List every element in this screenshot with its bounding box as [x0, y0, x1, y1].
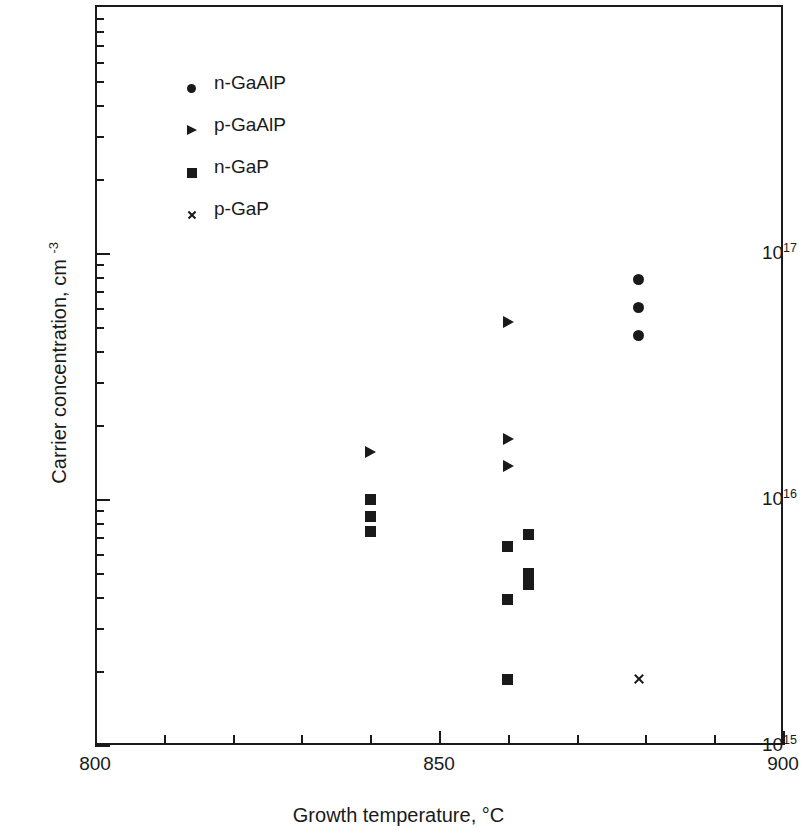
data-point-n-gap	[365, 494, 376, 505]
y-axis-major-tick	[95, 745, 110, 747]
y-axis-minor-tick	[95, 136, 104, 138]
data-point-p-gaalp	[503, 433, 514, 445]
x-axis-title: Growth temperature, °C	[0, 805, 797, 825]
y-axis-major-tick	[95, 499, 110, 501]
data-point-p-gap	[632, 672, 646, 686]
x-axis-minor-tick	[645, 735, 647, 745]
y-axis-tick-label: 1015	[717, 734, 797, 754]
y-axis-minor-tick	[95, 510, 104, 512]
y-tick-exponent: 17	[783, 241, 797, 255]
y-axis-minor-tick	[95, 597, 104, 599]
data-point-p-gaalp	[503, 460, 514, 472]
y-axis-title: Carrier concentration, cm -3	[47, 153, 69, 573]
y-tick-exponent: 15	[783, 733, 797, 747]
y-axis-minor-tick	[95, 18, 104, 20]
legend-label: p-GaP	[214, 199, 269, 218]
y-axis-minor-tick	[95, 327, 104, 329]
data-point-p-gaalp	[365, 446, 376, 458]
y-axis-minor-tick	[95, 573, 104, 575]
data-point-n-gap	[523, 579, 534, 590]
legend-marker-glyph	[187, 84, 196, 93]
y-axis-minor-tick	[95, 628, 104, 630]
y-axis-major-tick	[95, 253, 110, 255]
y-axis-minor-tick	[95, 62, 104, 64]
legend-marker-triangle-right-icon	[185, 122, 201, 138]
data-point-n-gap	[523, 529, 534, 540]
y-axis-minor-tick	[95, 81, 104, 83]
y-axis-minor-tick	[95, 523, 104, 525]
y-axis-title-exponent: -3	[46, 242, 61, 254]
y-axis-minor-tick	[95, 554, 104, 556]
x-axis-major-tick	[95, 731, 97, 745]
data-point-p-gaalp	[503, 316, 514, 328]
y-axis-minor-tick	[95, 537, 104, 539]
x-axis-minor-tick	[508, 735, 510, 745]
data-point-n-gaalp	[633, 274, 644, 285]
x-axis-tick-label: 800	[50, 754, 140, 773]
data-point-n-gap	[365, 526, 376, 537]
x-axis-major-tick	[783, 731, 785, 745]
x-axis-tick-label: 850	[394, 754, 484, 773]
y-axis-tick-label: 1016	[717, 488, 797, 508]
y-axis-minor-tick	[95, 291, 104, 293]
legend-marker-circle-icon	[185, 80, 201, 96]
data-point-n-gap	[365, 511, 376, 522]
data-point-n-gap	[502, 674, 513, 685]
y-axis-minor-tick	[95, 308, 104, 310]
x-axis-minor-tick	[301, 735, 303, 745]
y-tick-mantissa: 10	[762, 242, 783, 263]
data-point-n-gaalp	[633, 302, 644, 313]
x-axis-major-tick	[439, 731, 441, 745]
x-axis-minor-tick	[370, 735, 372, 745]
y-axis-tick-label: 1017	[717, 242, 797, 262]
y-axis-minor-tick	[95, 105, 104, 107]
y-axis-minor-tick	[95, 45, 104, 47]
legend-marker-glyph	[187, 125, 197, 135]
y-axis-minor-tick	[95, 382, 104, 384]
y-axis-minor-tick	[95, 277, 104, 279]
y-axis-title-text: Carrier concentration, cm	[48, 254, 70, 484]
legend-label: n-GaAlP	[214, 73, 286, 92]
x-axis-minor-tick	[714, 735, 716, 745]
y-axis-minor-tick	[95, 179, 104, 181]
plot-frame	[95, 5, 783, 745]
legend-marker-square-icon	[185, 164, 201, 180]
data-point-n-gap	[502, 594, 513, 605]
x-axis-minor-tick	[233, 735, 235, 745]
x-axis-minor-tick	[164, 735, 166, 745]
x-axis-minor-tick	[577, 735, 579, 745]
legend-label: n-GaP	[214, 157, 269, 176]
x-axis-tick-label: 900	[738, 754, 803, 773]
y-axis-minor-tick	[95, 264, 104, 266]
data-point-n-gap	[523, 568, 534, 579]
y-axis-minor-tick	[95, 425, 104, 427]
y-axis-minor-tick	[95, 31, 104, 33]
legend-marker-glyph	[187, 168, 197, 178]
y-tick-mantissa: 10	[762, 488, 783, 509]
legend-label: p-GaAlP	[214, 115, 286, 134]
y-axis-minor-tick	[95, 671, 104, 673]
legend-marker-cross-icon	[185, 206, 201, 222]
data-point-n-gap	[502, 541, 513, 552]
y-tick-exponent: 16	[783, 487, 797, 501]
y-axis-minor-tick	[95, 351, 104, 353]
legend-marker-glyph	[187, 210, 197, 220]
